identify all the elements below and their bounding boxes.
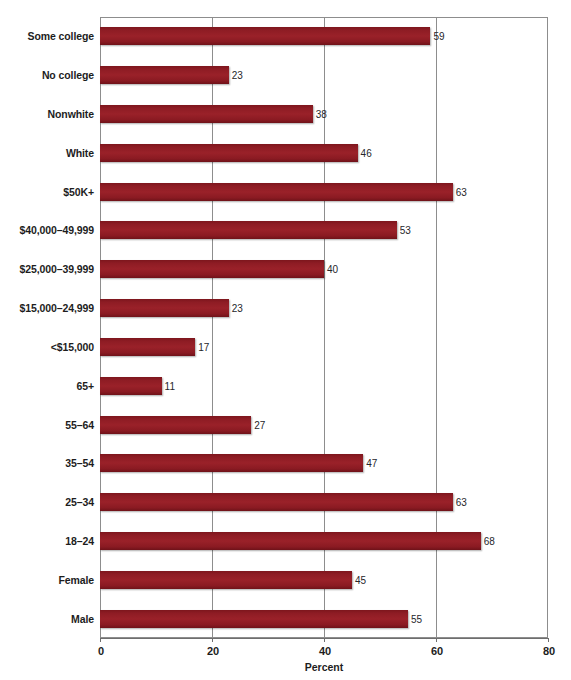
category-label: White	[66, 147, 94, 159]
bar	[100, 105, 313, 123]
bar-value-label: 23	[232, 303, 243, 314]
bar-row: No college23	[0, 56, 571, 95]
x-tick-40	[324, 638, 325, 642]
bar-value-label: 27	[254, 419, 265, 430]
category-label: $40,000–49,999	[19, 224, 94, 236]
bar-row: 65+11	[0, 366, 571, 405]
x-tick-0	[100, 638, 101, 642]
x-tick-20	[212, 638, 213, 642]
x-tick-label-0: 0	[98, 645, 104, 657]
category-label: Male	[71, 613, 94, 625]
category-label: 55–64	[65, 419, 94, 431]
x-tick-60	[436, 638, 437, 642]
category-label: 35–54	[65, 457, 94, 469]
bar-value-label: 68	[484, 535, 495, 546]
bar-value-label: 40	[327, 264, 338, 275]
category-label: <$15,000	[51, 341, 94, 353]
bar-value-label: 45	[355, 574, 366, 585]
bar-row: 18–2468	[0, 522, 571, 561]
page-footer-sliver	[6, 672, 296, 680]
bar-row: Male55	[0, 599, 571, 638]
bar-row: Female45	[0, 560, 571, 599]
bar	[100, 532, 481, 550]
bar-value-label: 17	[198, 341, 209, 352]
category-label: No college	[42, 69, 94, 81]
category-label: $50K+	[63, 186, 94, 198]
bar	[100, 299, 229, 317]
bar	[100, 66, 229, 84]
category-label: 18–24	[65, 535, 94, 547]
category-label: $15,000–24,999	[19, 302, 94, 314]
bar-row: Nonwhite38	[0, 95, 571, 134]
bar-row: Some college59	[0, 17, 571, 56]
category-label: $25,000–39,999	[19, 263, 94, 275]
bar-row: 25–3463	[0, 483, 571, 522]
bar	[100, 610, 408, 628]
bar-value-label: 38	[316, 109, 327, 120]
bar-row: 35–5447	[0, 444, 571, 483]
bar-value-label: 63	[456, 186, 467, 197]
bar	[100, 571, 352, 589]
bar-value-label: 23	[232, 70, 243, 81]
bar-value-label: 47	[366, 458, 377, 469]
category-label: Nonwhite	[48, 108, 94, 120]
bar	[100, 377, 162, 395]
bar-row: <$15,00017	[0, 328, 571, 367]
bar-row: $40,000–49,99953	[0, 211, 571, 250]
x-tick-80	[548, 638, 549, 642]
bar	[100, 221, 397, 239]
bar	[100, 493, 453, 511]
x-tick-label-40: 40	[319, 645, 331, 657]
bar-row: $15,000–24,99923	[0, 289, 571, 328]
bar-value-label: 59	[433, 31, 444, 42]
bar	[100, 338, 195, 356]
bar-row: 55–6427	[0, 405, 571, 444]
category-label: Female	[58, 574, 94, 586]
bar-row: $25,000–39,99940	[0, 250, 571, 289]
bar-row: White46	[0, 133, 571, 172]
x-tick-label-20: 20	[207, 645, 219, 657]
x-tick-label-60: 60	[431, 645, 443, 657]
bar-value-label: 63	[456, 497, 467, 508]
bar	[100, 144, 358, 162]
bar-chart: Some college59No college23Nonwhite38Whit…	[0, 0, 571, 680]
bar	[100, 416, 251, 434]
bar-value-label: 46	[361, 147, 372, 158]
bar-value-label: 55	[411, 613, 422, 624]
bar	[100, 183, 453, 201]
category-label: Some college	[28, 30, 95, 42]
bar	[100, 260, 324, 278]
category-label: 65+	[76, 380, 94, 392]
bar-value-label: 53	[400, 225, 411, 236]
bar	[100, 454, 363, 472]
bar	[100, 27, 430, 45]
x-tick-label-80: 80	[543, 645, 555, 657]
bar-row: $50K+63	[0, 172, 571, 211]
bar-rows: Some college59No college23Nonwhite38Whit…	[0, 17, 571, 638]
bar-value-label: 11	[165, 380, 175, 391]
category-label: 25–34	[65, 496, 94, 508]
